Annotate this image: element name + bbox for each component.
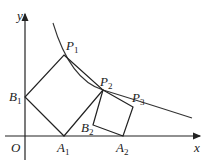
point-a1-label: A1 xyxy=(56,140,69,157)
x-axis-label: x xyxy=(193,140,200,155)
hyperbola-square-diagram: y x O P1 P2 P3 B1 B2 A1 A2 xyxy=(0,0,206,166)
point-b2-label: B2 xyxy=(81,120,93,137)
point-p3-label: P3 xyxy=(131,90,145,107)
origin-label: O xyxy=(11,140,21,155)
y-axis-label: y xyxy=(15,8,23,23)
point-b1-label: B1 xyxy=(9,89,21,106)
point-p1-label: P1 xyxy=(65,38,78,55)
square-1 xyxy=(25,55,103,136)
point-a2-label: A2 xyxy=(115,140,128,157)
point-p2-label: P2 xyxy=(99,74,112,91)
